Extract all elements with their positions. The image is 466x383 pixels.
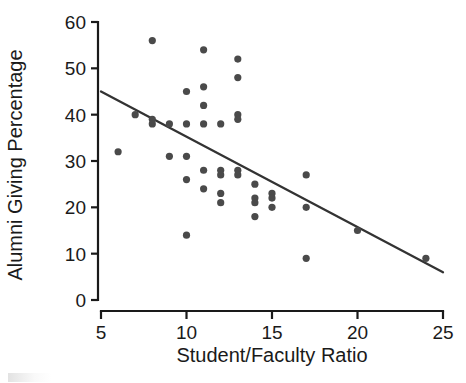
data-point (268, 194, 275, 201)
data-points (115, 37, 430, 262)
y-axis: 0102030405060 (65, 12, 98, 311)
y-tick-label: 0 (75, 290, 86, 311)
data-point (166, 153, 173, 160)
x-tick-label: 10 (176, 322, 197, 343)
y-tick-label: 20 (65, 197, 86, 218)
data-point (234, 116, 241, 123)
data-point (200, 120, 207, 127)
data-point (149, 120, 156, 127)
data-point (200, 46, 207, 53)
x-tick-label: 5 (96, 322, 107, 343)
x-tick-label: 25 (432, 322, 453, 343)
x-tick-label: 15 (261, 322, 282, 343)
data-point (200, 83, 207, 90)
data-point (132, 111, 139, 118)
data-point (200, 185, 207, 192)
data-point (183, 120, 190, 127)
x-axis-title: Student/Faculty Ratio (176, 344, 367, 366)
data-point (303, 171, 310, 178)
data-point (200, 102, 207, 109)
data-point (115, 148, 122, 155)
y-tick-label: 30 (65, 151, 86, 172)
y-tick-label: 40 (65, 105, 86, 126)
data-point (200, 167, 207, 174)
data-point (217, 199, 224, 206)
data-point (303, 204, 310, 211)
plot-canvas: 0102030405060 510152025 Student/Faculty … (0, 0, 466, 383)
data-point (251, 213, 258, 220)
data-point (234, 74, 241, 81)
data-point (234, 55, 241, 62)
y-tick-label: 60 (65, 12, 86, 33)
data-point (268, 204, 275, 211)
data-point (251, 181, 258, 188)
y-axis-title: Alumni Giving Percentage (4, 49, 26, 280)
page-artifact (8, 373, 52, 382)
data-point (422, 255, 429, 262)
data-point (234, 171, 241, 178)
data-point (149, 37, 156, 44)
x-tick-label: 20 (347, 322, 368, 343)
y-tick-label: 50 (65, 58, 86, 79)
y-tick-label: 10 (65, 244, 86, 265)
data-point (166, 120, 173, 127)
data-point (183, 232, 190, 239)
data-point (303, 255, 310, 262)
data-point (217, 120, 224, 127)
scatter-plot-figure: 0102030405060 510152025 Student/Faculty … (0, 0, 466, 383)
data-point (217, 171, 224, 178)
data-point (183, 176, 190, 183)
data-point (183, 88, 190, 95)
data-point (251, 199, 258, 206)
data-point (354, 227, 361, 234)
x-axis: 510152025 (96, 311, 454, 343)
data-point (183, 153, 190, 160)
data-point (217, 190, 224, 197)
